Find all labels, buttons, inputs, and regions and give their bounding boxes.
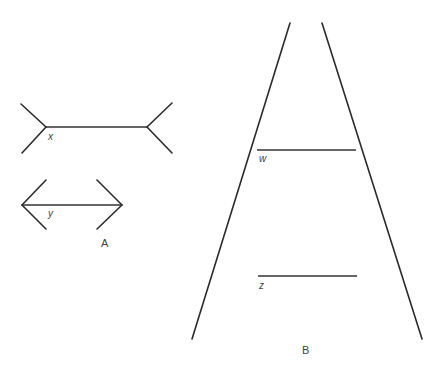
fin-right-lower: [147, 127, 172, 153]
fin-right-upper: [147, 103, 172, 127]
fin-left-lower: [22, 127, 46, 153]
arrow-left-upper: [22, 180, 46, 205]
arrow-right-upper: [97, 180, 122, 205]
arrow-right-lower: [97, 205, 122, 229]
label-z: z: [258, 280, 264, 291]
label-w: w: [259, 153, 267, 164]
figure-a-upper-line-x: x: [21, 103, 172, 153]
figure-a-caption: A: [101, 237, 109, 249]
rail-right: [322, 23, 422, 339]
figure-b-caption: B: [302, 344, 309, 356]
figure-b-ponzo: w z B: [192, 23, 422, 356]
rail-left: [192, 23, 290, 339]
label-x: x: [47, 131, 54, 142]
figure-a-lower-line-y: y: [22, 180, 122, 229]
arrow-left-lower: [22, 205, 46, 229]
figure-a-muller-lyer: x y A: [21, 103, 172, 249]
label-y: y: [47, 208, 54, 219]
illusion-diagram: x y A w z B: [0, 0, 447, 380]
fin-left-upper: [21, 104, 46, 127]
